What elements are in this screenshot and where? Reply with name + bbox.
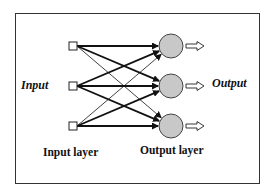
neural-network-diagram [0,0,272,194]
connection-line [77,91,159,126]
input-layer-nodes [69,42,77,130]
output-neuron-circle [159,74,183,98]
hollow-right-arrow-icon [186,42,204,51]
input-label: Input [21,78,48,93]
connection-line [77,46,161,118]
connection-line [77,46,159,81]
output-arrows [186,42,204,131]
output-neuron-circle [159,114,183,138]
hollow-right-arrow-icon [186,122,204,131]
input-node-square [69,122,77,130]
output-label: Output [212,76,247,91]
output-layer-nodes [159,34,183,138]
output-layer-label: Output layer [140,144,204,156]
connection-line [77,54,161,126]
input-node-square [69,42,77,50]
input-layer-label: Input layer [43,146,98,158]
input-node-square [69,82,77,90]
hollow-right-arrow-icon [186,82,204,91]
output-neuron-circle [159,34,183,58]
connections [77,46,161,126]
